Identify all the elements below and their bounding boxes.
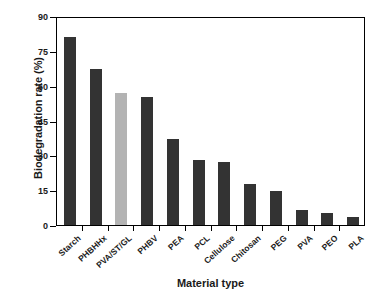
- x-tick-label: PLA: [346, 233, 365, 252]
- x-tick: [185, 226, 186, 231]
- bar: [244, 184, 256, 225]
- bars-group: [57, 18, 364, 225]
- bar-chart-figure: Biodegradation rate (%) 0153045607590 St…: [0, 0, 375, 299]
- x-tick-label: PEO: [320, 233, 340, 252]
- bar: [167, 139, 179, 225]
- x-tick: [288, 226, 289, 231]
- y-tick: [50, 226, 56, 227]
- bar: [347, 217, 359, 225]
- x-tick: [108, 226, 109, 231]
- x-tick: [339, 226, 340, 231]
- bar: [296, 210, 308, 225]
- y-tick-label: 75: [8, 47, 48, 57]
- plot-area: [56, 17, 365, 226]
- x-tick: [314, 226, 315, 231]
- y-tick-label: 45: [8, 117, 48, 127]
- x-tick: [133, 226, 134, 231]
- bar: [321, 213, 333, 225]
- y-tick-label: 30: [8, 151, 48, 161]
- x-tick: [262, 226, 263, 231]
- x-tick-label: PCL: [192, 233, 211, 252]
- bar: [115, 93, 127, 225]
- bar: [193, 160, 205, 225]
- x-tick: [211, 226, 212, 231]
- bar: [270, 191, 282, 225]
- y-tick-label: 15: [8, 186, 48, 196]
- y-tick-label: 90: [8, 12, 48, 22]
- x-tick: [82, 226, 83, 231]
- y-tick-label: 0: [8, 221, 48, 231]
- bar: [90, 69, 102, 225]
- x-tick-label: PHBV: [136, 233, 160, 256]
- x-tick-label: PVA: [295, 233, 314, 252]
- y-tick-label: 60: [8, 82, 48, 92]
- bar: [218, 162, 230, 225]
- x-tick: [159, 226, 160, 231]
- bar: [64, 37, 76, 225]
- x-tick-label: PEA: [166, 233, 186, 252]
- bar: [141, 97, 153, 225]
- x-axis-title: Material type: [56, 277, 365, 289]
- x-tick: [236, 226, 237, 231]
- x-tick-label: PEG: [269, 233, 289, 252]
